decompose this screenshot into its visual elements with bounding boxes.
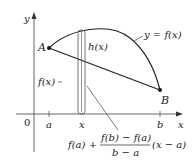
curve-label: y = f(x)	[143, 29, 182, 40]
formula-lead: f(a) +	[67, 139, 97, 150]
secant-line	[49, 48, 160, 90]
point-b-label: B	[160, 94, 169, 107]
y-axis-arrow-icon	[32, 12, 37, 19]
formula-leader	[87, 86, 118, 130]
x-axis-label: x	[178, 119, 184, 130]
tick-label-b: b	[157, 119, 163, 130]
secant-formula: f(a) + f(b) − f(a) b − a (x − a)	[67, 132, 186, 158]
f-label: f(x)	[37, 76, 55, 87]
curve-label-leader	[134, 36, 143, 41]
h-label: h(x)	[88, 41, 108, 52]
x-axis-arrow-icon	[176, 112, 183, 117]
tick-label-x: x	[79, 119, 85, 130]
origin-label: 0	[24, 117, 30, 128]
point-a-label: A	[37, 41, 46, 54]
tick-label-a: a	[46, 119, 52, 130]
formula-trail: (x − a)	[152, 139, 186, 150]
formula-numerator: f(b) − f(a)	[100, 132, 151, 143]
point-a	[47, 46, 51, 50]
diagram-canvas: y x 0 a x b A B y = f(x) h(x) f(x) f(a) …	[0, 0, 192, 164]
formula-denominator: b − a	[112, 147, 139, 158]
point-b	[158, 88, 162, 92]
y-axis-label: y	[23, 13, 30, 24]
